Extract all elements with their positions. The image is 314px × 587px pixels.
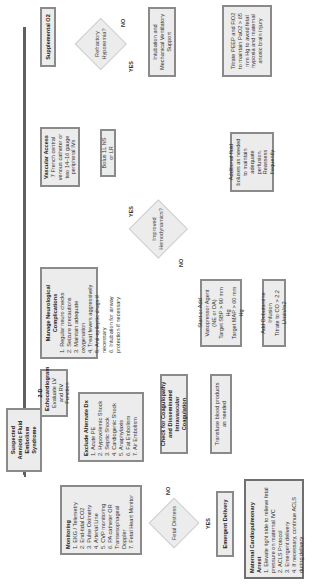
transfuse-box: Transfuse blood products as needed [210, 374, 232, 454]
refractory-no-label: NO [120, 19, 126, 27]
cardiac-arrest-list: 1. Elevate right side to relieve fetal p… [263, 485, 305, 573]
dobutamine-box: Add Dobutamine Infusion Titrate to CO > … [262, 279, 286, 347]
exclude-dx-item: 3. Septic Shock [104, 398, 111, 456]
neuro-item: 4. Treat fevers aggressively [87, 273, 94, 353]
neuro-item: 6. Intubation for airway protection if n… [108, 273, 122, 353]
intubation-box: Intubation and Mechanical Ventilatory Su… [148, 7, 176, 77]
refractory-yes-label: YES [128, 61, 134, 72]
exclude-dx-item: 7. Air Embolism [132, 398, 139, 456]
neuro-item: 5. Anti-epileptic drugs if necessary [94, 273, 108, 353]
titrate-peep-box: Titrate PEEP and FiO2 to maintain PaO2 >… [222, 5, 272, 77]
exclude-dx-item: 4. Cardiogenic Shock [111, 398, 118, 456]
improved-hemodynamics-label: Improved Hemodynamics? [130, 201, 186, 257]
intubation-label: Intubation and Mechanical Ventilatory Su… [152, 13, 173, 71]
coagulopathy-label: Check for Coagulopathy and Disseminated … [160, 380, 188, 448]
flowchart-canvas: Suspected Amniotic Fluid Embolism Syndro… [0, 0, 314, 587]
emergent-delivery-label: Emergent Delivery [222, 497, 229, 551]
cardiac-arrest-item: 1. Elevate right side to relieve fetal p… [263, 485, 277, 573]
exclude-dx-list: 1. Acute PE 2. Hypovolemic Shock 3. Sept… [90, 398, 139, 456]
echo-box: 2-D Echocardiogram Evaluate LV and RV Fu… [40, 369, 68, 417]
improved-hemodynamics-no-label: NO [178, 259, 184, 267]
neuro-item: 1. Regular neuro checks [59, 273, 66, 353]
vasopressor-box: Start or Add Vasopressor Agent (NE or DA… [200, 279, 242, 347]
vasopressor-label: Start or Add Vasopressor Agent (NE or DA… [197, 285, 218, 341]
monitoring-item: 6. PA catheter OR Transesophageal Dopple… [107, 491, 128, 549]
monitoring-item: 5. CVP monitoring [100, 491, 107, 549]
exclude-dx-item: 5. Anaphylaxis [118, 398, 125, 456]
fetal-distress-decision: Fetal Distress [150, 499, 198, 547]
transfuse-label: Transfuse blood products as needed [214, 380, 228, 448]
dobutamine-body: Titrate to CO > 2.2 L/min/m2 [274, 285, 288, 341]
neuro-box: Manage Neurological Complications 1. Reg… [40, 267, 98, 359]
fetal-distress-no-label: NO [165, 487, 171, 495]
improved-hemodynamics-yes-label: YES [128, 206, 134, 217]
cardiac-arrest-title: Maternal Cardiopulmonary Arrest [249, 485, 263, 573]
monitoring-box: Monitoring 1. EKG / Telemetry 2. End-tid… [60, 485, 142, 555]
exclude-dx-item: 2. Hypovolemic Shock [97, 398, 104, 456]
monitoring-item: 3. Pulse Oximetry [86, 491, 93, 549]
monitoring-title: Monitoring [65, 491, 72, 549]
echo-title: 2-D Echocardiogram [37, 375, 51, 411]
cardiac-arrest-item: 4. If necessary, continue ACLS during de… [291, 485, 305, 573]
neuro-list: 1. Regular neuro checks 2. Seizure preca… [59, 273, 122, 353]
monitoring-item: 1. EKG / Telemetry [72, 491, 79, 549]
vasopressor-target-map: Target MAP > 60 mm Hg [231, 285, 245, 341]
monitoring-item: 2. End-tidal CO2 [79, 491, 86, 549]
exclude-dx-box: Exclude Alternate Dx 1. Acute PE 2. Hypo… [78, 392, 144, 462]
cardiac-arrest-item: 3. Emergent delivery [284, 485, 291, 573]
supplemental-o2-box: Supplemental O2 [40, 7, 56, 67]
start-label: Suspected Amniotic Fluid Embolism Syndro… [10, 414, 38, 466]
vascular-access-body: 7 French central venous catheter or two … [50, 133, 78, 181]
bolus-box: Bolus 1L NS or LR [100, 129, 116, 177]
cardiac-arrest-item: 2. ACLS Protocol [277, 485, 284, 573]
bolus-label: Bolus 1L NS or LR [101, 135, 115, 171]
exclude-dx-item: 6. Fat Embolism [125, 398, 132, 456]
neuro-title: Manage Neurological Complications [45, 273, 59, 353]
cardiac-arrest-box: Maternal Cardiopulmonary Arrest 1. Eleva… [244, 479, 304, 579]
supplemental-o2-title: Supplemental O2 [45, 13, 52, 61]
monitoring-list: 1. EKG / Telemetry 2. End-tidal CO2 3. P… [72, 491, 135, 549]
fetal-distress-label: Fetal Distress [150, 499, 198, 547]
improved-hemodynamics-decision: Improved Hemodynamics? [130, 201, 186, 257]
coagulopathy-box: Check for Coagulopathy and Disseminated … [160, 374, 188, 454]
vascular-access-title: Vascular Access [43, 133, 50, 181]
neuro-item: 3. Maintain adequate oxygenation [73, 273, 87, 353]
vasopressor-target-sbp: Target SBP > 90 mm Hg [218, 285, 232, 341]
fetal-distress-yes-label: YES [205, 518, 211, 529]
neuro-item: 2. Seizure precautions [66, 273, 73, 353]
monitoring-item: 4. Arterial Line [93, 491, 100, 549]
refractory-hypoxemia-decision: Refractory Hypoxemia? [76, 19, 126, 69]
echo-body: Evaluate LV and RV Function [51, 375, 72, 411]
vascular-access-box: Vascular Access 7 French central venous … [40, 127, 80, 187]
monitoring-item: 7. Fetal Heart Monitor [128, 491, 135, 549]
additional-fluid-label: Additional fluid boluses as needed to ma… [228, 138, 277, 186]
additional-fluid-box: Additional fluid boluses as needed to ma… [230, 132, 274, 192]
start-box: Suspected Amniotic Fluid Embolism Syndro… [6, 408, 42, 472]
dobutamine-label: Add Dobutamine Infusion [260, 285, 274, 341]
refractory-hypoxemia-label: Refractory Hypoxemia? [76, 19, 126, 69]
titrate-peep-label: Titrate PEEP and FiO2 to maintain PaO2 >… [230, 11, 265, 71]
emergent-delivery-box: Emergent Delivery [216, 491, 234, 557]
exclude-dx-title: Exclude Alternate Dx [83, 398, 90, 456]
exclude-dx-item: 1. Acute PE [90, 398, 97, 456]
